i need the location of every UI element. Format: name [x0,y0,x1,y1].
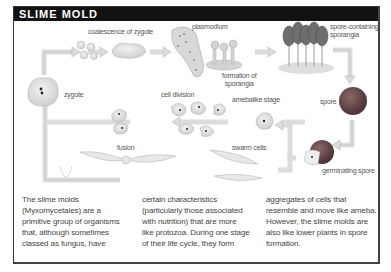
body-line: of their life cycle, they form [142,238,262,249]
arrow-head [275,120,283,130]
label-germinating: germinating spore [322,167,375,175]
plasmodium [172,27,204,77]
body-line: primitive group of organisms [22,216,137,227]
body-line: certain characteristics [142,194,262,205]
body-line: resemble and move like ameba. [266,205,378,216]
label-plasmodium: plasmodium [192,23,228,31]
arrow-head [100,47,108,57]
arrow-fusion-to-zygote [45,98,120,180]
label-amebalike: amebalike stage [232,96,280,104]
label-sporangia: spore-containing sporangia [330,23,379,39]
arrow-head [163,47,171,57]
body-line: However, the slime molds are [266,216,378,227]
arrow-zygote-to-coalescence [44,52,72,75]
label-formation-line2: sporangia [222,80,257,88]
arrow-sporangia-to-spore [333,50,350,76]
germinating-spore [304,140,334,165]
body-line: (particularly those associated [142,205,262,216]
coalescence-cells [77,41,146,60]
arrow-spore-to-germinating [340,120,352,145]
forming-sporangia [206,40,242,70]
arrow-head [268,47,276,57]
swarm-cells [210,150,262,181]
arrow-head [345,76,355,84]
swarm-cells-fusing [80,152,176,164]
body-column-3: aggregates of cells that resemble and mo… [266,194,378,249]
label-spore: spore [320,98,337,106]
body-line: classed as fungus, have [22,238,137,249]
body-column-1: The slime molds (Myxomycetales) are a pr… [22,194,137,249]
spore [339,87,367,115]
body-line: also like lower plants in spore [266,227,378,238]
label-sporangia-line1: spore-containing [330,23,379,31]
body-line: (Myxomycetales) are a [22,205,137,216]
label-swarm: swarm cells [232,144,266,152]
zygote-cell [28,78,58,107]
label-coalescence: coalescence of zygote [88,28,153,36]
label-cell-division: cell division [161,91,194,99]
body-line: formation. [266,238,378,249]
label-sporangia-line2: sporangia [330,31,379,39]
body-column-2: certain characteristics (particularly th… [142,194,262,249]
body-line: with nutrition) that are more [142,216,262,227]
body-line: aggregates of cells that [266,194,378,205]
arrow-germ-to-swarm [278,158,296,170]
label-fusion: fusion [117,144,134,152]
label-formation: formation of sporangia [222,72,257,88]
body-line: The slime molds [22,194,137,205]
arrow-to-ameba [283,125,290,158]
arrow-head [172,117,180,127]
label-zygote: zygote [64,91,83,99]
label-formation-line1: formation of [222,72,257,80]
body-line: like protozoa. During one stage [142,227,262,238]
mature-sporangia [278,22,334,74]
body-line: that, although sometimes [22,227,137,238]
